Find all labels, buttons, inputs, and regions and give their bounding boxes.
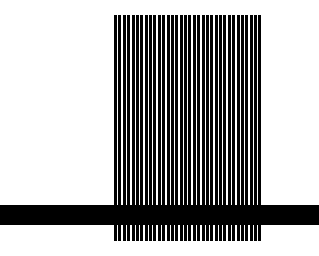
- horizontal-bar: [0, 205, 319, 225]
